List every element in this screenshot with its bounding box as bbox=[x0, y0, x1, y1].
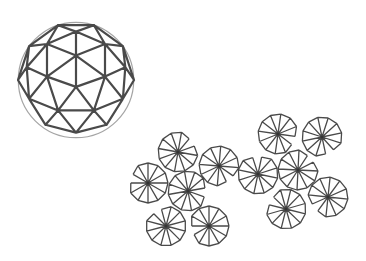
rosette-hub bbox=[326, 195, 329, 198]
rosette-hub bbox=[284, 207, 287, 210]
rosette bbox=[158, 132, 197, 171]
rosette bbox=[267, 190, 306, 229]
geodesic-sphere bbox=[18, 22, 134, 137]
rosette bbox=[199, 146, 239, 186]
sphere-wireframe bbox=[18, 25, 134, 132]
diagram-canvas bbox=[0, 0, 366, 261]
rosette-hub bbox=[296, 168, 299, 171]
rosette-hub bbox=[320, 135, 323, 138]
rosette-hub bbox=[164, 224, 167, 227]
rosette bbox=[168, 171, 205, 210]
rosette-hub bbox=[176, 150, 179, 153]
rosette bbox=[258, 114, 296, 154]
rosette-cluster bbox=[131, 114, 348, 246]
rosette-hub bbox=[207, 224, 210, 227]
rosette-hub bbox=[276, 132, 279, 135]
rosette-hub bbox=[186, 189, 189, 192]
rosette bbox=[302, 117, 341, 156]
rosette bbox=[192, 206, 229, 246]
rosette-hub bbox=[146, 181, 149, 184]
rosette bbox=[131, 163, 168, 203]
rosette bbox=[147, 207, 186, 246]
rosette-hub bbox=[217, 164, 220, 167]
rosette-hub bbox=[256, 172, 259, 175]
rosette bbox=[238, 157, 277, 193]
rosette bbox=[278, 150, 318, 190]
diagram-svg bbox=[0, 0, 366, 261]
rosette bbox=[308, 177, 348, 217]
